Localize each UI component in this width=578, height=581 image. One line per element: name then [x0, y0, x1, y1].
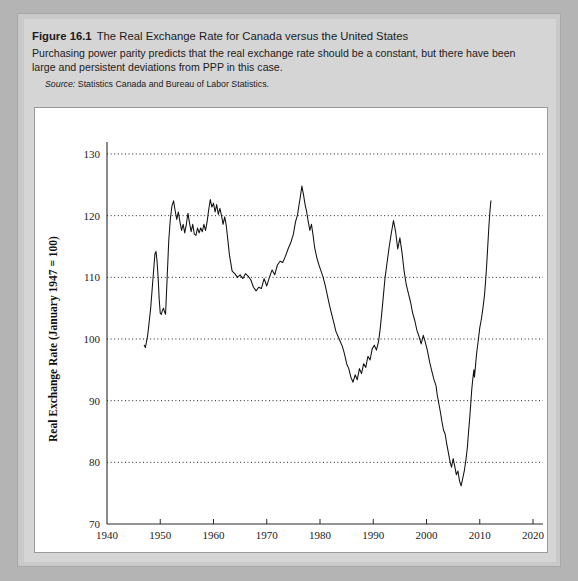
figure-number: Figure 16.1 — [32, 30, 92, 42]
figure-description: Purchasing power parity predicts that th… — [32, 47, 537, 75]
page-title: The Real Exchange Rate for Canada versus… — [97, 30, 408, 42]
x-axis-tick-label: 2000 — [416, 529, 439, 541]
y-axis-title: Real Exchange Rate (January 1947 = 100) — [47, 236, 60, 442]
x-axis-tick-label: 1970 — [256, 529, 279, 541]
y-axis-tick-label: 120 — [84, 210, 101, 222]
x-axis-tick-label: 2010 — [469, 529, 492, 541]
data-series-line — [144, 186, 491, 486]
x-axis-tick-label: 2020 — [522, 529, 545, 541]
chart-panel: 708090100110120130 194019501960197019801… — [34, 107, 548, 553]
x-axis-ticks-group: 194019501960197019801990200020102020 — [96, 519, 545, 541]
y-axis-tick-label: 130 — [84, 148, 101, 160]
x-axis-tick-label: 1990 — [362, 529, 385, 541]
x-axis-tick-label: 1960 — [203, 529, 226, 541]
x-axis-tick-label: 1980 — [309, 529, 332, 541]
figure-title-line: Figure 16.1The Real Exchange Rate for Ca… — [32, 29, 548, 43]
gridlines-group — [107, 154, 543, 462]
figure-content: Figure 16.1The Real Exchange Rate for Ca… — [24, 19, 556, 562]
y-axis-tick-label: 100 — [84, 333, 101, 345]
y-axis-tick-label: 110 — [84, 271, 101, 283]
figure-caption-block: Figure 16.1The Real Exchange Rate for Ca… — [32, 29, 548, 90]
y-axis-tick-label: 80 — [89, 456, 101, 468]
line-chart: 708090100110120130 194019501960197019801… — [35, 108, 545, 550]
source-label: Source: — [45, 79, 75, 89]
figure-page: Figure 16.1The Real Exchange Rate for Ca… — [0, 0, 578, 581]
x-axis-tick-label: 1950 — [149, 529, 172, 541]
source-text: Statistics Canada and Bureau of Labor St… — [78, 79, 269, 89]
x-axis-tick-label: 1940 — [96, 529, 119, 541]
y-axis-tick-label: 90 — [89, 395, 101, 407]
figure-source-line: Source: Statistics Canada and Bureau of … — [45, 79, 548, 90]
y-axis-ticks-group: 708090100110120130 — [84, 148, 101, 530]
